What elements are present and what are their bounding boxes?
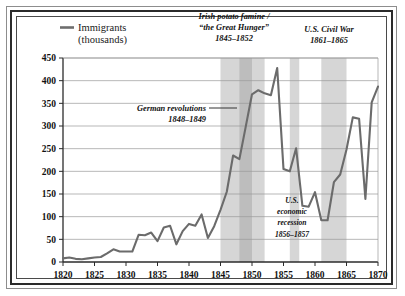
y-axis-tick-label: 400	[42, 76, 57, 86]
annotation-famine-line1: Irish potato famine /	[198, 12, 271, 21]
x-axis-tick-label: 1845	[211, 270, 230, 280]
y-axis-tick-label: 350	[42, 99, 57, 109]
x-axis-tick-label: 1850	[243, 270, 262, 280]
legend-label-immigrants: Immigrants	[78, 22, 126, 33]
annotation-civilwar-line2: 1861–1865	[310, 36, 348, 45]
y-axis-tick-label: 200	[42, 167, 57, 177]
annotation-civil-war: U.S. Civil War 1861–1865	[304, 25, 354, 45]
immigration-line-chart: 050100150200250300350400450 182018251830…	[0, 0, 405, 296]
y-axis-tick-label: 300	[42, 121, 57, 131]
x-axis-tick-label: 1855	[274, 270, 293, 280]
annotation-economic-recession: U.S. economic recession 1856–1857	[275, 196, 310, 239]
legend-label-units: (thousands)	[78, 34, 127, 46]
chart-legend: Immigrants (thousands)	[60, 22, 127, 46]
x-axis-tick-label: 1820	[54, 270, 73, 280]
annotation-recession-line3: recession	[277, 218, 306, 227]
y-axis-tick-label: 0	[51, 257, 56, 267]
annotation-german-line2: 1848–1849	[168, 115, 207, 124]
event-band	[321, 58, 346, 262]
x-axis-tick-label: 1825	[85, 270, 104, 280]
x-axis-tick-labels: 1820182518301835184018451850185518601865…	[54, 262, 388, 280]
annotation-recession-line1: U.S.	[285, 196, 299, 205]
y-axis-tick-label: 150	[42, 189, 57, 199]
y-axis-tick-label: 100	[42, 212, 57, 222]
y-axis-tick-label: 50	[47, 235, 57, 245]
chart-svg: 050100150200250300350400450 182018251830…	[0, 0, 405, 296]
y-axis-tick-label: 450	[42, 53, 57, 63]
x-axis-tick-label: 1835	[148, 270, 167, 280]
y-axis-tick-label: 250	[42, 144, 57, 154]
annotation-civilwar-line1: U.S. Civil War	[304, 25, 354, 34]
x-axis-tick-label: 1840	[180, 270, 199, 280]
x-axis-tick-label: 1830	[117, 270, 136, 280]
annotation-recession-line4: 1856–1857	[275, 230, 310, 239]
annotation-famine-line2: “the Great Hunger”	[199, 23, 270, 32]
y-axis-tick-labels: 050100150200250300350400450	[42, 53, 57, 267]
annotation-irish-famine: Irish potato famine / “the Great Hunger”…	[198, 12, 271, 43]
annotation-german-line1: German revolutions	[137, 104, 206, 113]
x-axis-tick-label: 1870	[369, 270, 388, 280]
x-axis-tick-label: 1865	[337, 270, 356, 280]
x-axis-tick-label: 1860	[306, 270, 325, 280]
event-band	[239, 58, 252, 262]
annotation-recession-line2: economic	[277, 207, 308, 216]
annotation-famine-line3: 1845–1852	[215, 34, 253, 43]
